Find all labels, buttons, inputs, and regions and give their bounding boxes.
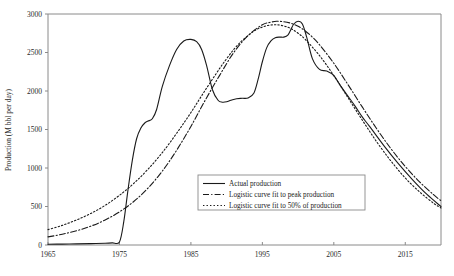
y-tick-label: 2500 — [27, 48, 42, 57]
y-tick-label: 500 — [31, 202, 43, 211]
x-tick-label: 1965 — [41, 250, 56, 259]
x-tick-label: 1975 — [112, 250, 127, 259]
y-axis-title: Production (M bbl per day) — [4, 88, 13, 171]
chart-legend: Actual productionLogistic curve fit to p… — [198, 175, 365, 210]
x-tick-label: 1995 — [255, 250, 270, 259]
y-tick-label: 1000 — [27, 164, 42, 173]
y-tick-label: 3000 — [27, 10, 42, 19]
data-series — [48, 21, 441, 244]
x-tick-label: 2005 — [326, 250, 341, 259]
y-tick-label: 2000 — [27, 87, 42, 96]
x-tick-label: 2015 — [398, 250, 413, 259]
y-tick-label: 0 — [38, 241, 42, 250]
legend-label: Logistic curve fit to peak production — [229, 191, 335, 199]
series-actual-production — [48, 21, 441, 244]
production-line-chart: 050010001500200025003000 196519751985199… — [0, 0, 454, 276]
y-tick-label: 1500 — [27, 125, 42, 134]
chart-container: 050010001500200025003000 196519751985199… — [0, 0, 454, 276]
x-tick-label: 1985 — [183, 250, 198, 259]
y-axis-ticks: 050010001500200025003000 — [27, 10, 48, 250]
legend-label: Actual production — [229, 180, 282, 188]
legend-label: Logistic curve fit to 50% of production — [229, 202, 342, 210]
